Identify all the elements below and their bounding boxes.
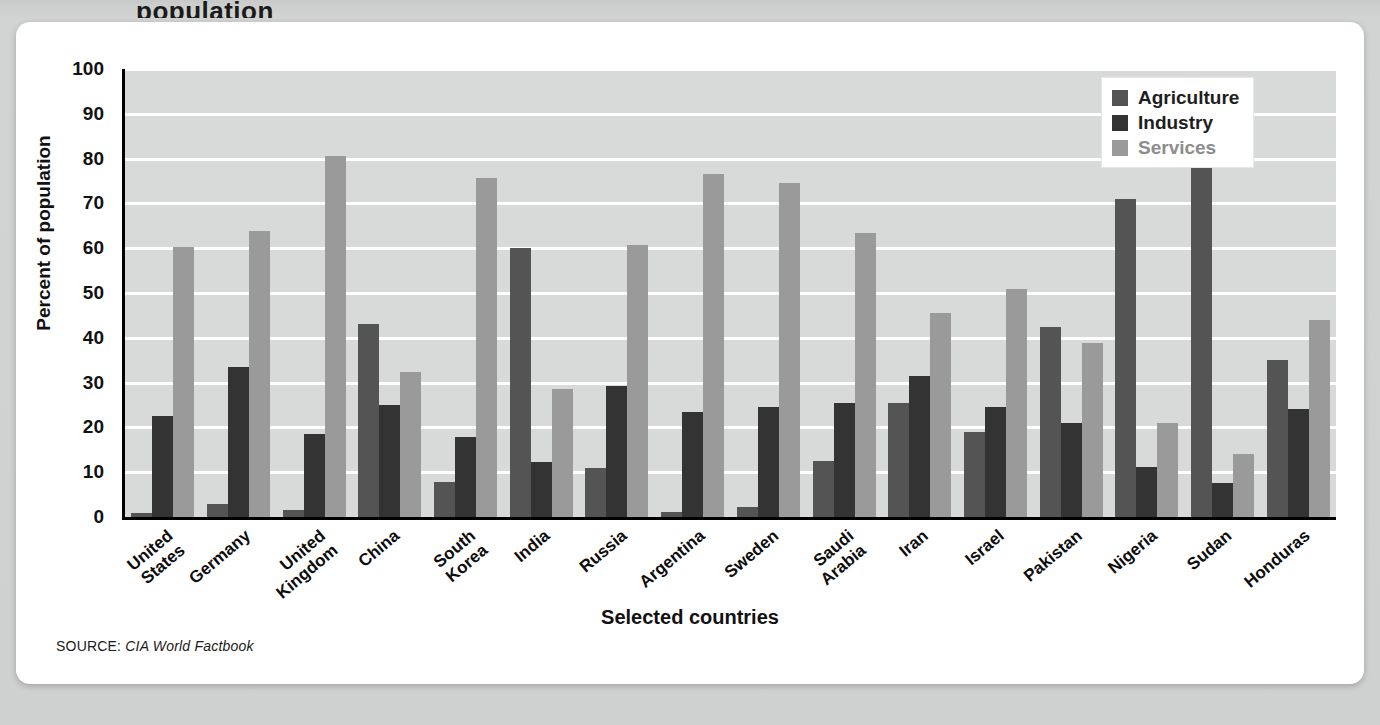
bar-services xyxy=(400,372,421,517)
x-tick-label-text: Pakistan xyxy=(1020,526,1086,586)
legend-label: Agriculture xyxy=(1138,87,1239,109)
bar-agriculture xyxy=(888,403,909,517)
bar-group xyxy=(882,69,958,517)
bar-industry xyxy=(1061,423,1082,517)
bar-services xyxy=(249,231,270,517)
bar-industry xyxy=(1212,483,1233,517)
bar-industry xyxy=(909,376,930,517)
bar-agriculture xyxy=(585,468,606,517)
bar-agriculture xyxy=(964,432,985,517)
bar-services xyxy=(476,178,497,517)
bar-industry xyxy=(152,416,173,517)
bar-group xyxy=(806,69,882,517)
x-tick-label-text: Sudan xyxy=(1184,526,1236,574)
legend-label: Services xyxy=(1138,137,1216,159)
bar-industry xyxy=(531,462,552,517)
bar-agriculture xyxy=(813,461,834,517)
x-axis-title: Selected countries xyxy=(16,606,1364,629)
source-note: SOURCE: CIA World Factbook xyxy=(56,638,254,654)
bar-services xyxy=(1006,289,1027,517)
bar-group xyxy=(958,69,1034,517)
page-background: population 0102030405060708090100 Percen… xyxy=(0,0,1380,725)
bar-group xyxy=(352,69,428,517)
bar-group xyxy=(731,69,807,517)
legend-swatch-icon xyxy=(1112,90,1128,106)
bar-services xyxy=(627,245,648,517)
x-tick-label-text: Iran xyxy=(895,526,931,561)
bar-industry xyxy=(1288,409,1309,517)
bar-group xyxy=(1033,69,1109,517)
bar-industry xyxy=(304,434,325,517)
legend-swatch-icon xyxy=(1112,140,1128,156)
x-tick-label-text: South Korea xyxy=(430,526,491,586)
bar-agriculture xyxy=(1040,327,1061,517)
bar-group xyxy=(201,69,277,517)
bar-agriculture xyxy=(131,513,152,517)
y-axis-title: Percent of population xyxy=(33,83,55,383)
y-tick-label: 50 xyxy=(83,282,104,304)
legend-item: Agriculture xyxy=(1112,85,1239,110)
bar-industry xyxy=(834,403,855,517)
x-tick-label-text: Russia xyxy=(576,526,631,576)
bar-services xyxy=(325,156,346,517)
x-tick-label-text: Nigeria xyxy=(1104,526,1160,578)
source-text: CIA World Factbook xyxy=(125,638,253,654)
x-tick-label-text: India xyxy=(511,526,554,566)
bar-agriculture xyxy=(510,248,531,517)
bar-group xyxy=(503,69,579,517)
bar-agriculture xyxy=(737,507,758,517)
legend-swatch-icon xyxy=(1112,115,1128,131)
bar-agriculture xyxy=(1115,199,1136,517)
bar-group xyxy=(655,69,731,517)
bar-services xyxy=(173,247,194,517)
x-tick-label-text: Israel xyxy=(962,526,1008,569)
chart-card: population 0102030405060708090100 Percen… xyxy=(16,22,1364,684)
y-tick-label: 60 xyxy=(83,237,104,259)
bar-services xyxy=(930,313,951,517)
bar-agriculture xyxy=(1191,154,1212,517)
bar-industry xyxy=(379,405,400,517)
bar-services xyxy=(703,174,724,517)
y-tick-label: 90 xyxy=(83,103,104,125)
y-tick-label: 10 xyxy=(83,461,104,483)
bar-industry xyxy=(1136,467,1157,517)
bar-agriculture xyxy=(358,324,379,517)
bar-group xyxy=(125,69,201,517)
y-tick-label: 80 xyxy=(83,148,104,170)
bar-group xyxy=(276,69,352,517)
bar-services xyxy=(552,389,573,517)
y-tick-label: 20 xyxy=(83,416,104,438)
bar-industry xyxy=(455,437,476,517)
bar-services xyxy=(1309,320,1330,517)
bar-industry xyxy=(606,386,627,517)
y-tick-label: 40 xyxy=(83,327,104,349)
legend-item: Services xyxy=(1112,135,1239,160)
bar-services xyxy=(779,183,800,517)
x-tick-label-text: United States xyxy=(124,526,189,589)
x-tick-label-text: Sweden xyxy=(721,526,782,582)
bar-services xyxy=(855,233,876,517)
bar-industry xyxy=(228,367,249,517)
bar-agriculture xyxy=(207,504,228,517)
x-tick-label-text: Saudi Arabia xyxy=(805,526,870,589)
bar-group xyxy=(1260,69,1336,517)
bar-services xyxy=(1233,454,1254,517)
x-tick-label-text: China xyxy=(355,526,403,571)
bar-agriculture xyxy=(434,482,455,517)
bar-agriculture xyxy=(661,512,682,517)
y-tick-label: 100 xyxy=(72,58,104,80)
y-axis-ticks: 0102030405060708090100 xyxy=(16,69,116,517)
bar-industry xyxy=(682,412,703,517)
bar-agriculture xyxy=(1267,360,1288,517)
bar-industry xyxy=(985,407,1006,517)
bar-group xyxy=(428,69,504,517)
bar-services xyxy=(1082,343,1103,517)
chart-legend: AgricultureIndustryServices xyxy=(1101,77,1254,168)
bar-agriculture xyxy=(283,510,304,517)
y-tick-label: 0 xyxy=(93,506,104,528)
legend-item: Industry xyxy=(1112,110,1239,135)
source-prefix: SOURCE: xyxy=(56,638,121,654)
x-tick-label-text: United Kingdom xyxy=(261,526,342,602)
bar-industry xyxy=(758,407,779,517)
page-title-partial: population xyxy=(136,0,274,18)
